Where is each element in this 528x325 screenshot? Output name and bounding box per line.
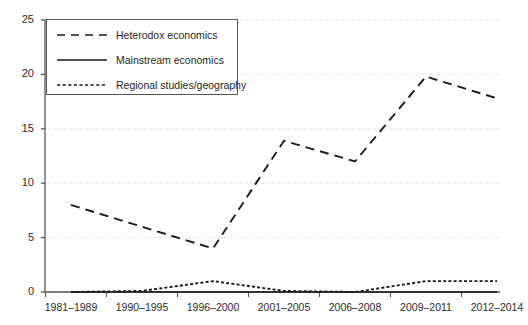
x-tick-label: 1990–1995	[106, 301, 178, 313]
legend-item-heterodox: Heterodox economics	[47, 22, 239, 47]
x-tick-label: 2006–2008	[319, 301, 391, 313]
x-tick-label: 2009–2011	[390, 301, 462, 313]
y-tick-label: 10	[8, 176, 34, 188]
legend-item-regional: Regional studies/geography	[47, 72, 239, 97]
y-tick-label: 25	[8, 13, 34, 25]
legend-label-mainstream: Mainstream economics	[116, 54, 224, 66]
y-tick-label: 5	[8, 231, 34, 243]
y-tick-label: 0	[8, 285, 34, 297]
x-tick-label: 2012–2014	[461, 301, 528, 313]
y-tick-label: 20	[8, 67, 34, 79]
legend-label-heterodox: Heterodox economics	[116, 29, 218, 41]
dotted-line-icon	[56, 79, 108, 91]
dashed-line-icon	[56, 29, 108, 41]
legend-item-mainstream: Mainstream economics	[47, 47, 239, 72]
x-tick-label: 2001–2005	[248, 301, 320, 313]
solid-line-icon	[56, 54, 108, 66]
x-tick-label: 1981–1989	[35, 301, 107, 313]
y-tick-label: 15	[8, 122, 34, 134]
data-series-group	[71, 77, 497, 292]
x-tick-label: 1996–2000	[177, 301, 249, 313]
legend-label-regional: Regional studies/geography	[116, 79, 246, 91]
chart-legend: Heterodox economics Mainstream economics…	[46, 19, 238, 95]
